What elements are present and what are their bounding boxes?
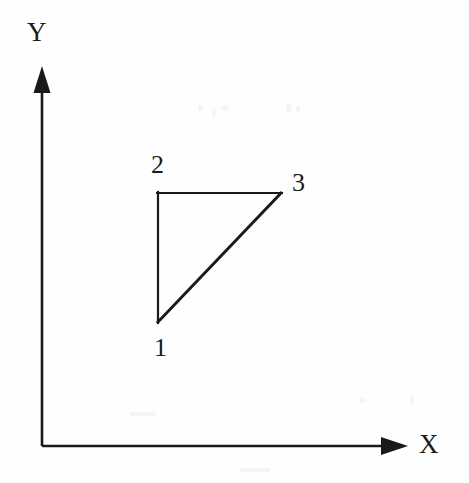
- scan-speck: [212, 108, 216, 117]
- scan-speck: [410, 395, 414, 404]
- arrow-right-icon: [381, 437, 408, 455]
- scan-speck: [360, 398, 365, 403]
- arrow-up-icon: [34, 66, 51, 93]
- figure-canvas: Y X 1 2 3: [0, 0, 469, 483]
- vertex-label-3: 3: [292, 170, 305, 196]
- vertex-label-2: 2: [151, 152, 164, 178]
- axis-label-y: Y: [27, 19, 47, 46]
- scan-speck: [198, 104, 203, 111]
- scan-speck: [240, 468, 270, 472]
- triangle-edge-hypotenuse: [158, 193, 281, 322]
- scan-speck: [130, 412, 156, 416]
- scan-speck: [286, 104, 291, 112]
- scan-speck: [222, 105, 228, 111]
- axis-label-x: X: [419, 431, 439, 458]
- triangle-axes-diagram: [0, 0, 469, 483]
- vertex-label-1: 1: [154, 335, 167, 361]
- scan-speck: [296, 106, 300, 113]
